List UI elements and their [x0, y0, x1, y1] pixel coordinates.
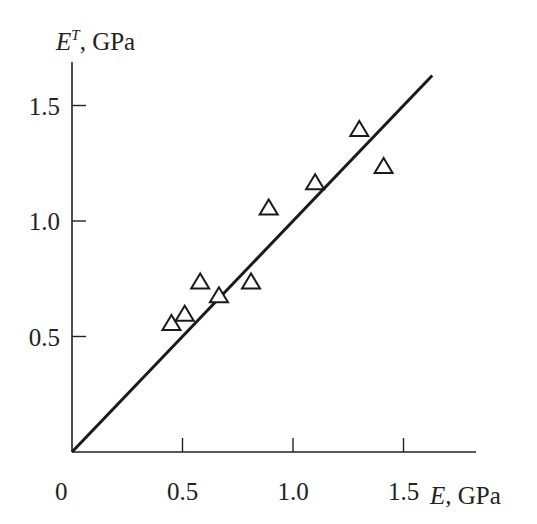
triangle-marker-icon: [210, 287, 228, 302]
origin-label: 0: [55, 478, 68, 505]
y-tick-label: 0.5: [29, 324, 60, 351]
y-tick-label: 1.0: [29, 208, 60, 235]
triangle-marker-icon: [306, 174, 324, 189]
x-tick-label: 0.5: [167, 478, 198, 505]
fit-line: [72, 75, 432, 452]
triangle-marker-icon: [350, 121, 368, 136]
x-axis-symbol: E: [429, 482, 445, 509]
triangle-marker-icon: [176, 306, 194, 321]
y-axis-title: ET, GPa: [55, 27, 135, 55]
x-tick-label: 1.0: [277, 478, 308, 505]
x-tick-label: 1.5: [388, 478, 419, 505]
triangle-marker-icon: [375, 158, 393, 173]
triangle-marker-icon: [260, 200, 278, 215]
triangle-marker-icon: [242, 273, 260, 288]
y-axis-unit: , GPa: [80, 28, 136, 55]
x-axis-unit: , GPa: [445, 482, 501, 509]
y-axis-symbol: E: [55, 28, 71, 55]
x-ticks: 0.51.01.5: [167, 438, 419, 505]
x-axis-title: E, GPa: [429, 482, 501, 509]
y-ticks: 0.51.01.5: [29, 93, 86, 351]
triangle-marker-icon: [191, 273, 209, 288]
y-tick-label: 1.5: [29, 93, 60, 120]
scatter-chart: 0.51.01.5 0.51.01.5 0 ET, GPa E, GPa: [0, 0, 537, 524]
